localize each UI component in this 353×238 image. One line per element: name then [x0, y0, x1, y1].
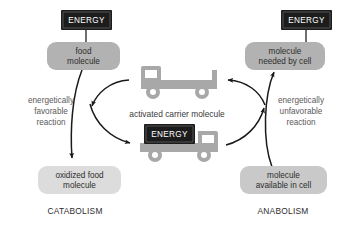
energy-box-on-truck: ENERGY — [144, 124, 195, 144]
arrow-catabolism-to-loaded-truck — [90, 104, 130, 143]
unfavorable-reaction-line1: energetically — [278, 96, 325, 105]
favorable-reaction-line2: favorable — [34, 107, 68, 116]
molecule-available-label-line1: molecule — [267, 171, 300, 180]
arrow-available-to-needed-molecule — [265, 72, 274, 167]
empty-truck-rear-post — [212, 70, 217, 84]
energy-box-on-truck-label: ENERGY — [151, 130, 188, 139]
arrow-loaded-truck-to-anabolism — [226, 108, 264, 145]
label-energetically-favorable-reaction: energetically favorable reaction — [28, 96, 75, 127]
empty-truck-bed — [161, 80, 217, 86]
section-label-catabolism: CATABOLISM — [47, 206, 102, 216]
empty-truck-rear-hub — [199, 89, 205, 95]
energy-cycle-diagram: ENERGY ENERGY food molecule molecule nee… — [0, 0, 353, 238]
arrow-food-to-oxidized-food — [71, 70, 82, 158]
energy-box-top-left-label: ENERGY — [68, 16, 105, 25]
node-oxidized-food-molecule: oxidized food molecule — [38, 166, 121, 194]
truck-loaded-carrier: ENERGY — [140, 124, 218, 162]
section-label-anabolism: ANABOLISM — [257, 206, 308, 216]
arrow-anabolism-to-empty-truck — [228, 80, 265, 105]
food-molecule-label-line2: molecule — [67, 57, 100, 66]
molecule-available-label-line2: available in cell — [256, 181, 312, 190]
loaded-truck-rear-hub — [152, 152, 158, 158]
node-molecule-available-in-cell: molecule available in cell — [240, 166, 327, 194]
energy-box-top-left: ENERGY — [61, 10, 112, 30]
node-molecule-needed-by-cell: molecule needed by cell — [245, 42, 325, 70]
favorable-reaction-line3: reaction — [36, 118, 66, 127]
empty-truck-front-hub — [150, 89, 156, 95]
favorable-reaction-line1: energetically — [28, 96, 75, 105]
oxidized-food-label-line1: oxidized food — [55, 171, 104, 180]
unfavorable-reaction-line2: unfavorable — [280, 107, 323, 116]
center-label-activated-carrier: activated carrier molecule — [129, 109, 225, 119]
molecule-needed-label-line1: molecule — [269, 47, 302, 56]
truck-empty-carrier — [141, 66, 217, 99]
unfavorable-reaction-line3: reaction — [286, 118, 316, 127]
loaded-truck-front-hub — [201, 152, 207, 158]
node-food-molecule: food molecule — [47, 42, 120, 70]
empty-truck-window — [145, 70, 157, 78]
energy-box-top-right-label: ENERGY — [288, 16, 325, 25]
food-molecule-label-line1: food — [76, 47, 92, 56]
loaded-truck-window — [202, 135, 214, 143]
diagram-canvas: ENERGY ENERGY food molecule molecule nee… — [0, 0, 353, 238]
label-energetically-unfavorable-reaction: energetically unfavorable reaction — [278, 96, 325, 127]
arrow-empty-truck-to-catabolism — [92, 80, 129, 106]
molecule-needed-label-line2: needed by cell — [259, 57, 312, 66]
energy-box-top-right: ENERGY — [281, 10, 332, 30]
oxidized-food-label-line2: molecule — [63, 181, 96, 190]
